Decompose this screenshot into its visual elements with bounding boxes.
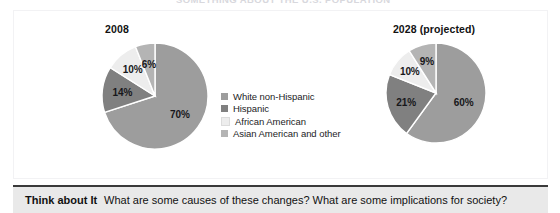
chart-legend: White non-HispanicHispanicAfrican Americ… (221, 90, 341, 140)
pie-slice-label: 10% (400, 66, 420, 77)
pie-slice-label: 70% (170, 109, 190, 120)
think-about-it-question: What are some causes of these changes? W… (104, 194, 507, 206)
chart-2008: 2008 70%14%10%6% (24, 23, 210, 168)
chart-2008-pie: 70%14%10%6% (100, 41, 210, 151)
figure-panel: 2008 70%14%10%6% White non-HispanicHispa… (13, 10, 548, 179)
pie-slice-label: 21% (396, 96, 416, 107)
legend-item: African American (221, 115, 341, 128)
legend-swatch-icon (221, 105, 228, 112)
pie-slice-label: 10% (123, 64, 143, 75)
pie-slice-label: 6% (142, 58, 156, 69)
pie-slice-label: 9% (420, 56, 434, 67)
chart-2028-pie: 60%21%10%9% (384, 41, 488, 145)
cropped-headline: SOMETHING ABOUT THE U.S. POPULATION (176, 0, 436, 3)
legend-item: White non-Hispanic (221, 90, 341, 103)
think-about-it-label: Think about It (25, 194, 97, 206)
legend-item-label: African American (235, 116, 306, 127)
think-about-it-bar: Think about It What are some causes of t… (13, 185, 548, 213)
legend-swatch-icon (221, 130, 228, 137)
legend-item-label: Hispanic (233, 103, 269, 114)
legend-swatch-icon (221, 117, 230, 126)
chart-2028: 2028 (projected) 60%21%10%9% (344, 23, 524, 168)
legend-item: Hispanic (221, 103, 341, 116)
pie-slice-label: 14% (113, 86, 133, 97)
chart-2008-title: 2008 (24, 23, 210, 35)
legend-swatch-icon (221, 93, 228, 100)
chart-2028-title: 2028 (projected) (344, 23, 524, 35)
legend-item-label: White non-Hispanic (233, 91, 314, 102)
legend-item: Asian American and other (221, 128, 341, 141)
pie-slice-label: 60% (454, 97, 474, 108)
pie-graphic (384, 41, 488, 145)
legend-item-label: Asian American and other (233, 128, 341, 139)
